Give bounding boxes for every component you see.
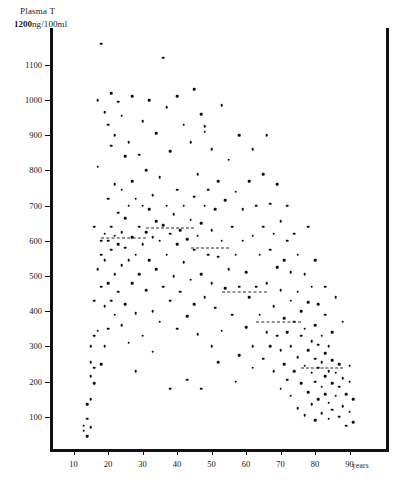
scatter-point xyxy=(117,211,120,214)
x-axis-tick xyxy=(350,449,351,455)
scatter-point xyxy=(96,166,99,169)
y-axis-tick-label: 800 xyxy=(6,165,42,175)
plot-title: Plasma T xyxy=(20,6,55,16)
figure-root: Plasma T 1200ng/100ml 110010009008007006… xyxy=(0,0,407,484)
scatter-point xyxy=(138,273,141,276)
scatter-point xyxy=(338,386,341,389)
mean-line xyxy=(146,228,194,229)
scatter-point xyxy=(334,296,337,299)
y-axis-tick xyxy=(45,417,53,418)
scatter-point xyxy=(272,305,275,308)
scatter-point xyxy=(190,141,193,144)
scatter-point xyxy=(141,120,144,123)
scatter-point xyxy=(324,313,327,316)
scatter-point xyxy=(248,180,251,183)
x-axis-tick xyxy=(212,449,213,455)
y-axis-tick-label: 200 xyxy=(6,377,42,387)
scatter-point xyxy=(255,204,258,207)
scatter-point xyxy=(131,180,134,183)
scatter-point xyxy=(107,123,110,126)
x-axis-tick xyxy=(74,449,75,455)
y-axis-tick-label: 700 xyxy=(6,201,42,211)
scatter-point xyxy=(165,254,168,257)
scatter-point xyxy=(176,328,179,331)
scatter-point xyxy=(207,188,210,191)
scatter-point xyxy=(203,296,206,299)
y-axis-tick xyxy=(45,276,53,277)
scatter-point xyxy=(300,382,303,385)
scatter-point xyxy=(341,405,344,408)
scatter-point xyxy=(134,254,137,257)
scatter-point xyxy=(345,393,348,396)
scatter-point xyxy=(117,100,120,103)
scatter-point xyxy=(245,326,248,329)
scatter-point xyxy=(141,204,144,207)
scatter-point xyxy=(265,134,268,137)
scatter-point xyxy=(172,213,175,216)
scatter-point xyxy=(221,104,224,107)
scatter-point xyxy=(183,123,186,126)
scatter-point xyxy=(328,401,331,404)
y-axis-tick xyxy=(45,346,53,347)
scatter-point xyxy=(210,345,213,348)
scatter-point xyxy=(210,282,213,285)
scatter-point xyxy=(179,291,182,294)
scatter-point xyxy=(303,414,306,417)
scatter-point xyxy=(307,391,310,394)
scatter-point xyxy=(124,217,127,220)
scatter-point xyxy=(158,320,161,323)
scatter-point xyxy=(89,345,92,348)
scatter-point xyxy=(324,285,327,288)
scatter-point xyxy=(203,204,206,207)
scatter-point xyxy=(334,394,337,397)
scatter-point xyxy=(221,240,224,243)
scatter-point xyxy=(134,197,137,200)
scatter-point xyxy=(324,393,327,396)
scatter-point xyxy=(321,361,324,364)
scatter-point xyxy=(124,155,127,158)
scatter-point xyxy=(103,232,106,235)
scatter-point xyxy=(86,403,89,406)
scatter-point xyxy=(93,382,96,385)
scatter-point xyxy=(165,204,168,207)
scatter-point xyxy=(276,183,279,186)
scatter-point xyxy=(276,266,279,269)
scatter-point xyxy=(252,366,255,369)
scatter-point xyxy=(252,148,255,151)
scatter-point xyxy=(83,430,86,433)
scatter-point xyxy=(169,150,172,153)
scatter-point xyxy=(110,225,113,228)
scatter-point xyxy=(121,115,124,118)
scatter-point xyxy=(200,222,203,225)
plot-data-area xyxy=(53,28,386,449)
scatter-point xyxy=(283,317,286,320)
y-axis-tick-label: 900 xyxy=(6,130,42,140)
scatter-point xyxy=(89,426,92,429)
scatter-point xyxy=(107,328,110,331)
scatter-point xyxy=(176,95,179,98)
scatter-point xyxy=(314,380,317,383)
scatter-point xyxy=(196,234,199,237)
scatter-point xyxy=(227,159,230,162)
scatter-point xyxy=(114,183,117,186)
scatter-point xyxy=(324,375,327,378)
scatter-point xyxy=(203,130,206,133)
scatter-point xyxy=(272,232,275,235)
scatter-point xyxy=(262,357,265,360)
scatter-point xyxy=(286,379,289,382)
scatter-point xyxy=(176,243,179,246)
scatter-point xyxy=(138,225,141,228)
scatter-point xyxy=(214,208,217,211)
y-axis-tick xyxy=(45,311,53,312)
scatter-point xyxy=(155,268,158,271)
scatter-point xyxy=(93,299,96,302)
scatter-point xyxy=(110,299,113,302)
scatter-point xyxy=(317,303,320,306)
scatter-point xyxy=(162,224,165,227)
scatter-point xyxy=(110,144,113,147)
scatter-point xyxy=(276,335,279,338)
scatter-point xyxy=(248,296,251,299)
scatter-point xyxy=(348,380,351,383)
scatter-point xyxy=(183,204,186,207)
scatter-point xyxy=(331,331,334,334)
